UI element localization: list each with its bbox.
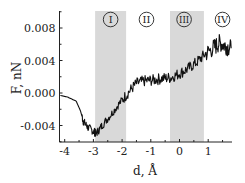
y-tick-label: -0.004 <box>20 120 55 133</box>
x-tick-label: -2 <box>117 145 128 158</box>
x-tick-label: 0 <box>176 145 183 158</box>
y-tick-label: 0.000 <box>24 87 56 100</box>
region-label-ii: II <box>139 12 154 27</box>
y-tick-label: 0.008 <box>24 22 56 35</box>
y-tick-label: 0.004 <box>24 55 56 68</box>
x-tick-label: -4 <box>59 145 70 158</box>
x-tick-label: -3 <box>88 145 99 158</box>
force-distance-chart: IIIIIIIV -4-3-2-101-0.0040.0000.0040.008… <box>0 0 245 183</box>
series-line <box>60 34 231 136</box>
y-axis-label: F, nN <box>10 62 24 94</box>
data-series <box>60 34 231 136</box>
svg-text:IV: IV <box>217 14 229 25</box>
x-axis-label: d, Å <box>133 163 157 178</box>
x-tick-label: -1 <box>145 145 156 158</box>
region-label-iv: IV <box>215 12 230 27</box>
shaded-region-i <box>95 11 126 142</box>
svg-text:I: I <box>109 14 113 25</box>
x-tick-label: 1 <box>205 145 212 158</box>
svg-text:II: II <box>143 14 151 25</box>
svg-text:III: III <box>179 15 189 25</box>
